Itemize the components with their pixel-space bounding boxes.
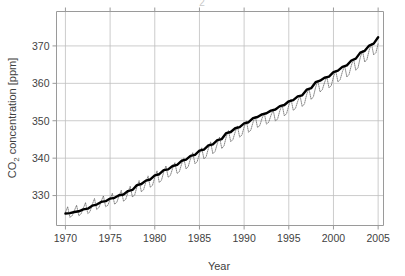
co2-line-chart: 2 19701975198019851990199520002005 33034… — [0, 0, 405, 276]
y-tick-label: 360 — [32, 77, 50, 89]
y-tick-label: 350 — [32, 115, 50, 127]
x-tick-label: 2000 — [322, 232, 346, 244]
x-tick-label: 1985 — [188, 232, 212, 244]
x-axis-title: Year — [208, 260, 231, 272]
x-tick-label: 1980 — [143, 232, 167, 244]
y-tick-label: 340 — [32, 152, 50, 164]
x-tick-label: 1995 — [277, 232, 301, 244]
clipped-title-fragment: 2 — [199, 0, 205, 8]
y-tick-label: 370 — [32, 40, 50, 52]
x-tick-label: 1990 — [232, 232, 256, 244]
x-tick-label: 2005 — [366, 232, 390, 244]
chart-figure: 2 19701975198019851990199520002005 33034… — [0, 0, 405, 276]
x-tick-label: 1970 — [54, 232, 78, 244]
y-tick-label: 330 — [32, 189, 50, 201]
x-tick-label: 1975 — [98, 232, 122, 244]
